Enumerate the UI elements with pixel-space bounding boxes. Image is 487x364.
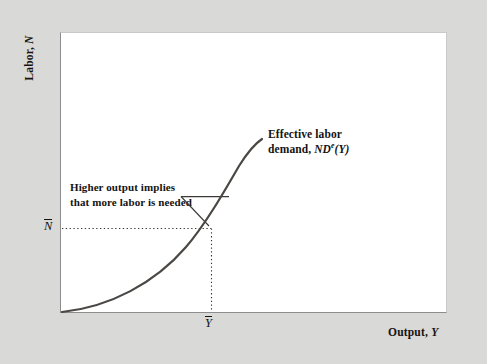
annotation-higher-output: Higher output implies that more labor is… bbox=[70, 180, 192, 210]
x-tick-label-ybar: Y bbox=[205, 316, 212, 331]
y-axis-title: Labor, N bbox=[23, 13, 35, 103]
curve-label-prefix: demand, bbox=[268, 143, 314, 155]
x-axis-title: Output, Y bbox=[388, 326, 438, 338]
curve-label-argument: (Y) bbox=[335, 143, 350, 155]
y-tick-label-nbar-text: N bbox=[44, 219, 52, 233]
annotation-line1: Higher output implies bbox=[70, 180, 192, 195]
plot-area bbox=[60, 32, 447, 313]
y-axis-title-variable: N bbox=[23, 35, 35, 44]
x-tick-label-ybar-text: Y bbox=[205, 316, 212, 330]
x-axis-title-variable: Y bbox=[431, 326, 438, 338]
curve-label-line2: demand, NDe(Y) bbox=[268, 142, 350, 157]
curve-label: Effective labor demand, NDe(Y) bbox=[268, 127, 350, 158]
curve-label-function: ND bbox=[314, 143, 331, 155]
x-axis-title-text: Output, bbox=[388, 326, 431, 338]
annotation-line2: that more labor is needed bbox=[70, 195, 192, 210]
y-tick-label-nbar: N bbox=[44, 219, 52, 234]
y-axis-title-text: Labor, bbox=[23, 44, 35, 81]
curve-label-line1: Effective labor bbox=[268, 127, 350, 142]
figure-container: Labor, N Output, Y N Y Effective labor d… bbox=[0, 0, 487, 364]
